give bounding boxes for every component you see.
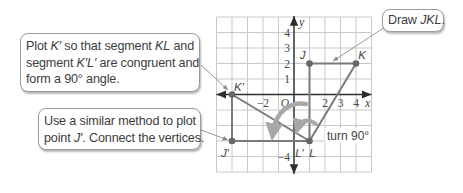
y-tick-label: −4 [278, 151, 290, 163]
callout-plot-k-prime: Plot K′ so that segment KL and segment K… [20, 33, 200, 92]
callout-pointer-k-prime [201, 65, 228, 90]
point-label-J_prime: J′ [220, 147, 230, 159]
callout-draw-jkl: Draw JKL. [382, 9, 444, 32]
callout-line: Plot K′ so that segment KL and [26, 38, 194, 55]
x-tick-label: 2 [322, 97, 328, 109]
point-label-L_prime: L′ [295, 147, 304, 159]
callout-line: segment K′L′ are congruent and [26, 55, 194, 72]
y-tick-label: 2 [284, 58, 290, 70]
x-tick-label: −2 [257, 97, 269, 109]
y-tick-label: 1 [284, 73, 290, 85]
point-K [353, 60, 360, 67]
callout-pointer-j-prime [201, 130, 228, 140]
callout-plot-j-prime: Use a similar method to plot point J′. C… [38, 108, 201, 150]
point-label-K_prime: K′ [234, 81, 245, 93]
point-J_prime [229, 138, 236, 145]
x-tick-label: 3 [338, 97, 344, 109]
x-tick-label: 4 [353, 97, 359, 109]
point-label-K: K [358, 49, 367, 61]
callout-line: Draw JKL. [388, 12, 438, 29]
rotation-arrow-small-icon [298, 120, 316, 127]
x-axis-label: x [364, 96, 371, 110]
point-label-L: L [309, 147, 315, 159]
callout-line: Use a similar method to plot [44, 113, 195, 130]
point-L [306, 138, 313, 145]
point-label-J: J [299, 49, 306, 61]
y-axis-label: y [298, 15, 305, 29]
callout-line: point J′. Connect the vertices. [44, 130, 195, 147]
rotation-arrow-large-icon [273, 103, 306, 132]
rotation-label: turn 90° [327, 129, 369, 143]
y-tick-label: 4 [284, 27, 290, 39]
axes [217, 16, 372, 174]
y-tick-label: 3 [284, 42, 290, 54]
point-J [306, 60, 313, 67]
callout-line: form a 90° angle. [26, 71, 194, 88]
